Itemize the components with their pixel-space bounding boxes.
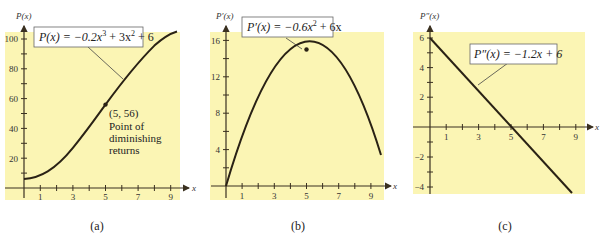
x-tick-label: 9 [574,132,579,142]
equation-label: P(x) = −0.2x3 + 3x2 + 6 [38,29,154,44]
x-tick-label: 5 [103,192,108,202]
chart-panel-c: 1 3 5 7 9 −4 −2 2 4 6 P″(x) x P″(x) = −1… [413,11,599,233]
figure: 1 3 5 7 9 20 40 60 80 100 P(x) x P(x) = … [0,0,601,240]
y-axis-label: P(x) [15,11,32,21]
y-tick-label: 80 [9,64,19,74]
inflection-point [103,102,107,106]
chart-panel-a: 1 3 5 7 9 20 40 60 80 100 P(x) x P(x) = … [5,11,197,233]
panel-caption: (b) [291,219,305,233]
y-axis-label: P′(x) [215,11,233,21]
y-tick-label: 4 [216,145,221,155]
x-axis-label: x [594,122,599,132]
x-tick-label: 9 [369,191,374,201]
y-tick-label: 2 [420,92,425,102]
panel-caption: (c) [498,219,511,233]
y-tick-label: 20 [9,154,19,164]
point-label: (5, 56) [109,107,139,120]
x-tick-label: 1 [38,192,43,202]
plot-background [210,32,384,200]
equation-label: P″(x) = −1.2x + 6 [473,47,562,61]
y-tick-label: 16 [211,36,221,46]
annotation-line-3: returns [109,144,140,156]
x-axis-label: x [191,183,196,193]
x-tick-label: 1 [444,132,449,142]
x-axis-label: x [392,181,397,191]
y-tick-label: 60 [9,94,19,104]
chart-panel-b: 1 3 5 7 9 4 8 12 16 P′(x) x P′(x) = −0.6… [210,11,397,233]
y-tick-label: 4 [420,63,425,73]
y-tick-label: 8 [216,108,221,118]
annotation-line-1: Point of [109,120,144,132]
plot-background [5,32,180,200]
y-tick-label: 100 [5,34,19,44]
x-tick-label: 1 [240,191,245,201]
y-tick-label: 12 [211,72,220,82]
y-tick-label: −2 [414,152,424,162]
x-tick-label: 3 [476,132,481,142]
panel-caption: (a) [90,219,103,233]
x-tick-label: 5 [509,132,514,142]
annotation-line-2: diminishing [109,132,162,144]
x-tick-label: 3 [272,191,277,201]
y-axis-label: P″(x) [419,11,439,21]
x-tick-label: 9 [168,192,173,202]
x-tick-label: 7 [136,192,141,202]
x-tick-label: 7 [336,191,341,201]
maximum-point [304,47,308,51]
y-tick-label: 40 [9,124,19,134]
x-tick-label: 7 [541,132,546,142]
equation-label: P′(x) = −0.6x2 + 6x [246,19,342,34]
x-tick-label: 3 [71,192,76,202]
x-tick-label: 5 [304,191,309,201]
y-tick-label: 6 [420,33,425,43]
y-tick-label: −4 [414,182,424,192]
